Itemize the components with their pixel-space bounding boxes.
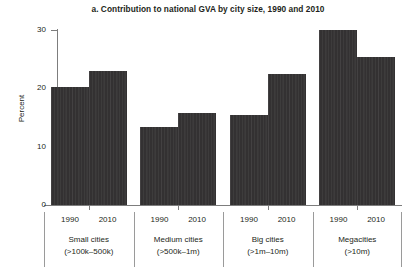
- y-tick-label-10: 10: [6, 143, 46, 151]
- y-tick-label-0: 0: [6, 201, 46, 209]
- x-year-label-small-cities-2010: 2010: [86, 215, 130, 224]
- x-group-label-name: Megacities: [313, 234, 403, 246]
- chart-figure: a. Contribution to national GVA by city …: [0, 0, 416, 269]
- bar-small-cities-1990: [51, 87, 89, 205]
- x-group-label-megacities: Megacities(>10m): [313, 234, 403, 257]
- x-group-tick-3: [357, 206, 358, 210]
- y-axis-title: Percent: [17, 74, 26, 144]
- y-tick-30: [51, 30, 58, 31]
- bar-megacities-1990: [319, 30, 357, 205]
- x-group-label-big-cities: Big cities(>1m–10m): [223, 234, 313, 257]
- x-group-label-medium-cities: Medium cities(>500k–1m): [134, 234, 224, 257]
- x-group-tick-0: [89, 206, 90, 210]
- x-group-label-range: (>10m): [313, 246, 403, 258]
- x-group-label-name: Big cities: [223, 234, 313, 246]
- x-group-tick-1: [178, 206, 179, 210]
- x-group-label-name: Small cities: [44, 234, 134, 246]
- x-group-label-range: (>100k–500k): [44, 246, 134, 258]
- x-group-label-range: (>500k–1m): [134, 246, 224, 258]
- x-group-tick-2: [268, 206, 269, 210]
- y-tick-label-20: 20: [6, 84, 46, 92]
- bar-medium-cities-2010: [178, 113, 216, 205]
- category-label-band: 19902010Small cities(>100k–500k)19902010…: [44, 212, 402, 267]
- y-tick-label-30: 30: [6, 26, 46, 34]
- x-year-label-medium-cities-2010: 2010: [175, 215, 219, 224]
- bar-medium-cities-1990: [140, 127, 178, 205]
- bar-small-cities-2010: [89, 71, 127, 205]
- x-axis-line: [44, 205, 402, 206]
- bar-big-cities-2010: [268, 74, 306, 205]
- x-group-label-range: (>1m–10m): [223, 246, 313, 258]
- x-year-label-megacities-2010: 2010: [354, 215, 398, 224]
- x-group-label-small-cities: Small cities(>100k–500k): [44, 234, 134, 257]
- bar-megacities-2010: [357, 57, 395, 205]
- bar-big-cities-1990: [230, 115, 268, 205]
- x-group-label-name: Medium cities: [134, 234, 224, 246]
- x-year-label-big-cities-2010: 2010: [265, 215, 309, 224]
